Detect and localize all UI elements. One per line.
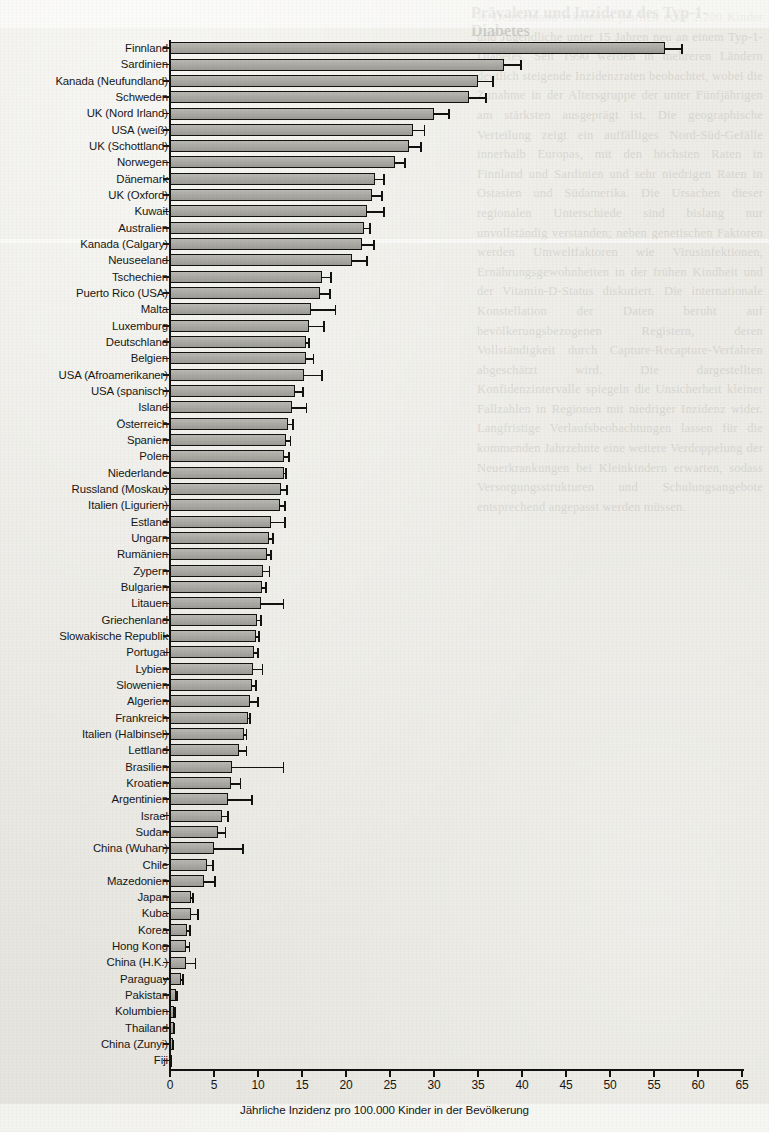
bar-category-label: Mazedonien (107, 873, 168, 889)
bar-category-label: USA (weiß) (111, 122, 168, 138)
bar-row: Zypern (0, 563, 769, 579)
bar-row: Dänemark (0, 171, 769, 187)
bar-row: Argentinien (0, 791, 769, 807)
y-axis-tick (163, 129, 170, 131)
bar (170, 483, 281, 495)
y-axis-tick (163, 717, 170, 719)
error-bar-cap (681, 44, 683, 55)
y-axis-tick (163, 798, 170, 800)
y-axis-tick (163, 635, 170, 637)
bar-row: Slowakische Republik (0, 628, 769, 644)
y-axis-tick (163, 211, 170, 213)
bar-row: Belgien (0, 350, 769, 366)
bar-row: Chile (0, 857, 769, 873)
bar-row: Island (0, 399, 769, 415)
bar (170, 532, 269, 544)
x-axis-tick-label: 35 (463, 1078, 493, 1092)
error-bar-cap (225, 827, 227, 838)
bar-row: Kanada (Calgary) (0, 236, 769, 252)
bar-category-label: Kroatien (126, 775, 168, 791)
error-bar-cap (290, 436, 292, 447)
y-axis-tick (163, 439, 170, 441)
x-axis-tick (433, 1071, 435, 1077)
bar (170, 761, 232, 773)
y-axis-tick (163, 880, 170, 882)
bar-row: Estland (0, 514, 769, 530)
x-axis-tick-label: 45 (551, 1078, 581, 1092)
bar (170, 646, 254, 658)
bar-row: China (Wuhan) (0, 840, 769, 856)
bar-category-label: Thailand (125, 1020, 168, 1036)
bar-category-label: Hong Kong (112, 938, 168, 954)
bar-row: Slowenien (0, 677, 769, 693)
y-axis-tick (163, 194, 170, 196)
bar-row: Tschechien (0, 269, 769, 285)
x-axis-tick-label: 50 (595, 1078, 625, 1092)
y-axis-tick (163, 978, 170, 980)
bar-category-label: Tschechien (112, 269, 168, 285)
incidence-bar-chart: FinnlandSardinienKanada (Neufundland)Sch… (0, 0, 769, 1132)
x-axis-line (169, 1069, 744, 1071)
x-axis-tick (169, 1071, 171, 1077)
bar (170, 891, 191, 903)
x-axis-tick (213, 1071, 215, 1077)
bar-category-label: China (Zunyi) (101, 1036, 168, 1052)
bar (170, 597, 261, 609)
bar-category-label: Schweden (116, 89, 168, 105)
x-axis-tick-label: 0 (155, 1078, 185, 1092)
error-bar-cap (302, 387, 304, 398)
error-bar-whisker (311, 309, 337, 311)
bar (170, 712, 248, 724)
bar-row: Malta (0, 301, 769, 317)
error-bar-cap (242, 844, 244, 855)
error-bar-cap (369, 223, 371, 234)
error-bar-cap (192, 893, 194, 904)
error-bar-cap (258, 631, 260, 642)
bar (170, 744, 239, 756)
bar (170, 565, 263, 577)
bar (170, 467, 284, 479)
error-bar-cap (313, 354, 315, 365)
bar-row: UK (Nord Irland) (0, 105, 769, 121)
bar-category-label: Neuseeland (108, 252, 168, 268)
bar (170, 940, 186, 952)
bar (170, 140, 409, 152)
x-axis-tick (565, 1071, 567, 1077)
error-bar-cap (284, 517, 286, 528)
bar-category-label: China (Wuhan) (93, 840, 168, 856)
bar (170, 810, 222, 822)
bar-row: Australien (0, 220, 769, 236)
bar-category-label: Algerien (127, 693, 168, 709)
bar (170, 59, 504, 71)
x-axis-title: Jährliche Inzidenz pro 100.000 Kinder in… (0, 1103, 769, 1116)
bar-row: Paraguay (0, 971, 769, 987)
bar-category-label: Puerto Rico (USA) (76, 285, 168, 301)
x-axis-tick (609, 1071, 611, 1077)
error-bar-cap (212, 860, 214, 871)
bar-row: Kanada (Neufundland) (0, 73, 769, 89)
y-axis-tick (163, 684, 170, 686)
y-axis-tick (163, 668, 170, 670)
error-bar-cap (260, 615, 262, 626)
error-bar-cap (251, 795, 253, 806)
bar (170, 369, 304, 381)
y-axis-tick (163, 864, 170, 866)
bar-row: Sardinien (0, 56, 769, 72)
bar-row: Thailand (0, 1020, 769, 1036)
bar-row: UK (Oxford) (0, 187, 769, 203)
y-axis-tick (163, 1027, 170, 1029)
x-axis-tick-label: 40 (507, 1078, 537, 1092)
error-bar-cap (246, 746, 248, 757)
bar-category-label: Frankreich (115, 710, 168, 726)
bar-category-label: Paraguay (120, 971, 168, 987)
error-bar-cap (492, 76, 494, 87)
y-axis-tick (163, 358, 170, 360)
error-bar-cap (246, 729, 248, 740)
error-bar-cap (270, 550, 272, 561)
error-bar-cap (284, 501, 286, 512)
error-bar-whisker (261, 603, 285, 605)
error-bar-cap (329, 289, 331, 300)
bar-row: Spanien (0, 432, 769, 448)
error-bar-cap (381, 191, 383, 202)
bar (170, 222, 364, 234)
